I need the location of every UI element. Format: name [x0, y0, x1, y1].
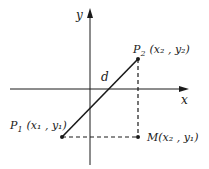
segment-d-label: d: [101, 70, 109, 84]
distance-diagram: y x d P2(x₂ , y₂) P1(x₁ , y₁) M(x₂ , y₁): [0, 0, 209, 169]
point-p1: [60, 135, 64, 139]
y-axis-label: y: [75, 8, 83, 22]
point-p2-label: P2(x₂ , y₂): [132, 43, 190, 58]
x-axis-arrow-icon: [179, 86, 189, 92]
point-m: [136, 135, 140, 139]
point-m-label: M(x₂ , y₁): [146, 131, 199, 144]
point-p1-label: P1(x₁ , y₁): [9, 119, 67, 134]
point-p2: [136, 57, 140, 61]
y-axis-arrow-icon: [87, 8, 93, 18]
segment-d: [62, 59, 138, 137]
x-axis-label: x: [181, 93, 188, 107]
